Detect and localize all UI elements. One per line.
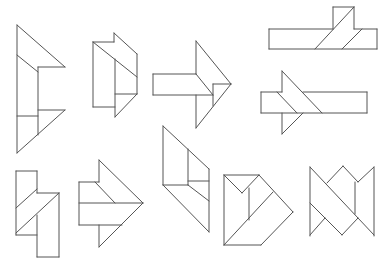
figure-edge — [163, 185, 209, 232]
figure-3-arrow-right — [153, 41, 231, 128]
figure-edge — [115, 94, 137, 117]
figure-edge — [16, 189, 37, 208]
figure-edge — [95, 182, 115, 203]
figure-10-zigzag-block — [310, 166, 374, 236]
figure-1-tall-arrow — [17, 25, 65, 153]
diagram-canvas — [0, 0, 389, 269]
figure-5-bar-with-arrowhead — [261, 71, 367, 134]
figure-4-long-bar-with-square — [269, 7, 377, 49]
figure-edge — [342, 29, 362, 49]
figure-edge — [196, 41, 231, 84]
figure-8-slanted-block — [163, 126, 209, 232]
figure-edge — [277, 92, 297, 113]
figure-edge — [282, 113, 303, 134]
figure-edge — [163, 126, 209, 169]
tangram-figures-svg — [0, 0, 389, 269]
figure-edge — [242, 175, 259, 193]
figure-7-arrow-right-split — [79, 160, 143, 247]
figure-edge — [342, 218, 358, 235]
figure-2-notched-block — [93, 33, 137, 117]
figure-edge — [358, 218, 374, 235]
figure-edge — [327, 166, 343, 183]
figure-edge — [188, 185, 209, 201]
figure-edge — [343, 166, 358, 182]
figure-9-notched-pentagon — [224, 175, 293, 245]
figure-6-stepped-column — [16, 171, 59, 257]
figure-edge — [224, 175, 242, 193]
figure-edge — [17, 55, 38, 72]
figure-edge — [358, 167, 374, 182]
figure-edge — [259, 175, 293, 212]
figure-edge — [114, 33, 137, 54]
figure-edge — [261, 212, 293, 245]
figure-edge — [310, 218, 325, 235]
figure-edge — [99, 160, 143, 203]
figure-edge — [196, 74, 213, 95]
